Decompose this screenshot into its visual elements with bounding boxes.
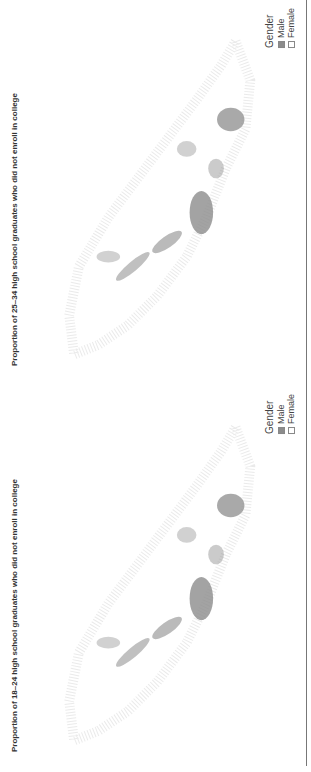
panel-divider (306, 0, 307, 386)
female-swatch-icon (288, 427, 295, 434)
legend-item-male: Male (276, 394, 286, 434)
female-swatch-icon (288, 41, 295, 48)
legend-item-female: Female (286, 8, 296, 48)
male-swatch-icon (278, 41, 285, 48)
legend-label: Male (276, 19, 286, 39)
legend-item-female: Female (286, 394, 296, 434)
legend: Gender Male Female (265, 8, 297, 78)
legend-title: Gender (265, 394, 275, 434)
dot-density-map (30, 396, 265, 762)
panel-25-34: Proportion of 25–34 high school graduate… (0, 0, 311, 386)
legend-item-male: Male (276, 8, 286, 48)
panel-title: Proportion of 25–34 high school graduate… (10, 93, 19, 366)
legend-label: Female (286, 8, 296, 38)
male-swatch-icon (278, 427, 285, 434)
legend-label: Male (276, 405, 286, 425)
dot-density-map (30, 10, 265, 376)
legend-title: Gender (265, 8, 275, 48)
legend: Gender Male Female (265, 394, 297, 464)
legend-label: Female (286, 394, 296, 424)
panel-divider (306, 386, 307, 766)
panel-title: Proportion of 18–24 high school graduate… (10, 479, 19, 752)
panel-18-24: Proportion of 18–24 high school graduate… (0, 386, 311, 772)
